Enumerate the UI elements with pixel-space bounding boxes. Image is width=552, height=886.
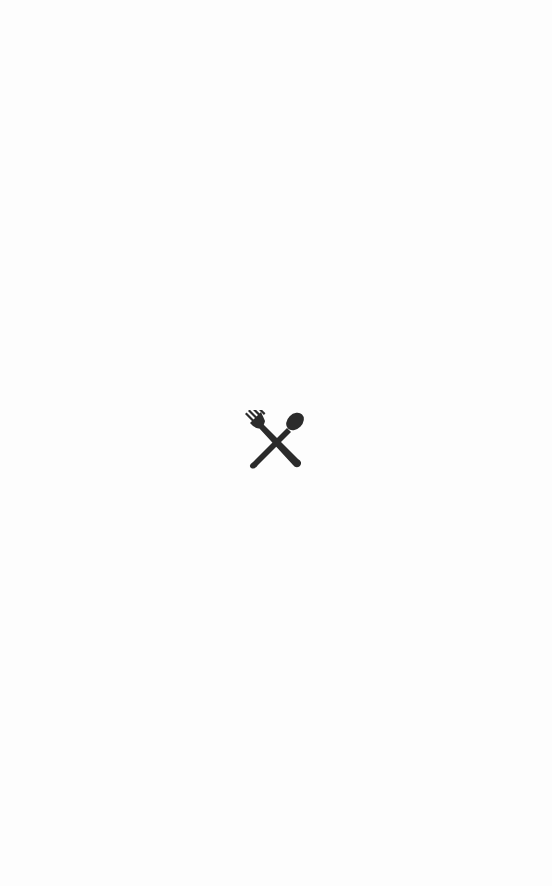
logo-label: Fork and spoon [242, 472, 243, 473]
splash-screen: Fork and spoon [0, 0, 552, 886]
fork-spoon-icon: Fork and spoon [242, 410, 308, 472]
